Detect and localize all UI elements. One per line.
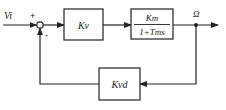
kv-label: Kv [77,20,90,31]
summing-junction [37,22,43,28]
plus-sign: + [30,11,35,21]
input-label: Vi [4,10,12,21]
kvd-label: Kvd [110,79,128,90]
plant-denominator: 1+Tms [139,27,165,37]
output-label: Ω [193,9,200,19]
diagram-svg: Vi + - Kv Km 1+Tms Ω Kvd [0,0,226,110]
minus-sign: - [45,30,48,40]
plant-numerator: Km [145,13,159,23]
block-diagram: Vi + - Kv Km 1+Tms Ω Kvd [0,0,226,110]
